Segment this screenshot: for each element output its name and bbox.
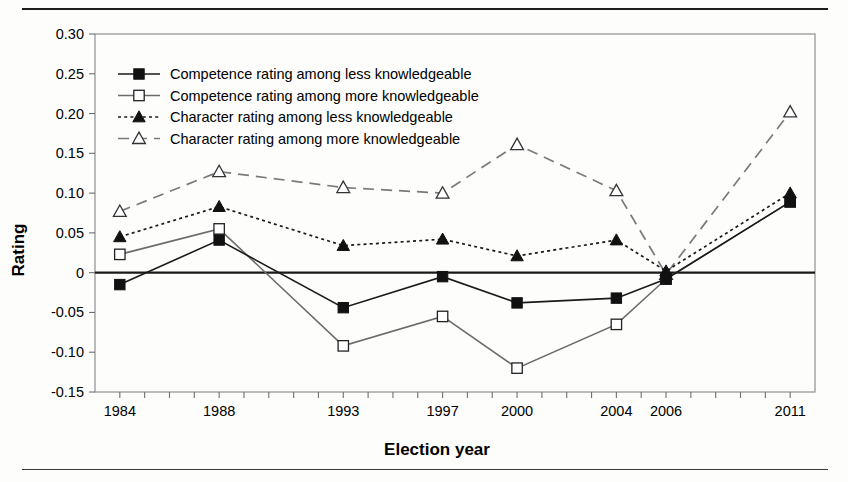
y-axis-title: Rating [9, 224, 28, 277]
chart-series [115, 197, 796, 374]
y-tick-label: 0.30 [56, 26, 84, 42]
bottom-divider-rule [22, 469, 828, 470]
chart-legend: Competence rating among less knowledgeab… [118, 66, 479, 146]
y-tick-label: 0.10 [56, 185, 84, 201]
data-point-marker [337, 181, 350, 192]
data-point-marker [511, 138, 524, 149]
x-tick-label: 2006 [650, 403, 682, 419]
legend-entry[interactable]: Character rating among more knowledgeabl… [118, 131, 460, 147]
y-tick-label: 0 [76, 265, 84, 281]
top-divider-rule [22, 8, 828, 10]
data-point-marker [214, 224, 224, 234]
series-line [120, 202, 790, 308]
data-point-marker [610, 234, 622, 245]
y-tick-label: -0.05 [51, 304, 84, 320]
x-tick-label: 2000 [501, 403, 533, 419]
y-tick-label: -0.15 [51, 384, 84, 400]
data-point-marker [113, 205, 126, 216]
data-point-marker [437, 271, 447, 281]
x-tick-label: 1988 [203, 403, 235, 419]
data-point-marker [338, 302, 348, 312]
x-tick-label: 1997 [426, 403, 458, 419]
legend-entry[interactable]: Competence rating among more knowledgeab… [118, 88, 479, 104]
x-axis-title: Election year [384, 440, 490, 459]
data-point-marker [213, 165, 226, 176]
data-point-marker [611, 293, 621, 303]
data-point-marker [115, 249, 125, 259]
data-point-marker [512, 363, 522, 373]
data-point-marker [214, 235, 224, 245]
chart-canvas: Rating Election year 0.300.250.200.150.1… [0, 18, 848, 466]
y-tick-label: -0.10 [51, 344, 84, 360]
data-point-marker [115, 279, 125, 289]
legend-label: Character rating among more knowledgeabl… [170, 131, 460, 147]
data-point-marker [437, 311, 447, 321]
figure-page: Rating Election year 0.300.250.200.150.1… [0, 0, 848, 482]
data-point-marker [610, 184, 623, 195]
y-tick-label: 0.15 [56, 145, 84, 161]
legend-label: Competence rating among more knowledgeab… [170, 88, 479, 104]
data-point-marker [114, 231, 126, 242]
y-tick-label: 0.20 [56, 106, 84, 122]
data-point-marker [611, 319, 621, 329]
data-point-marker [512, 298, 522, 308]
x-tick-label: 1993 [327, 403, 359, 419]
line-chart: Rating Election year 0.300.250.200.150.1… [0, 18, 848, 466]
x-tick-label: 1984 [104, 403, 136, 419]
y-axis-ticks: 0.300.250.200.150.100.050-0.05-0.10-0.15 [51, 26, 95, 400]
data-point-marker [784, 106, 797, 117]
chart-series [115, 197, 796, 313]
data-point-marker [436, 233, 448, 244]
y-tick-label: 0.05 [56, 225, 84, 241]
x-tick-label: 2011 [775, 403, 806, 419]
data-point-marker [213, 200, 225, 211]
data-point-marker [661, 274, 671, 284]
legend-label: Competence rating among less knowledgeab… [170, 66, 471, 82]
legend-entry[interactable]: Character rating among less knowledgeabl… [118, 109, 453, 125]
x-axis-ticks: 19841988199319972000200420062011 [104, 392, 806, 419]
data-point-marker [338, 341, 348, 351]
data-point-marker [134, 90, 144, 100]
y-tick-label: 0.25 [56, 66, 84, 82]
x-tick-label: 2004 [600, 403, 632, 419]
legend-entry[interactable]: Competence rating among less knowledgeab… [118, 66, 471, 82]
legend-label: Character rating among less knowledgeabl… [170, 109, 453, 125]
data-point-marker [785, 197, 795, 207]
data-point-marker [134, 69, 144, 79]
